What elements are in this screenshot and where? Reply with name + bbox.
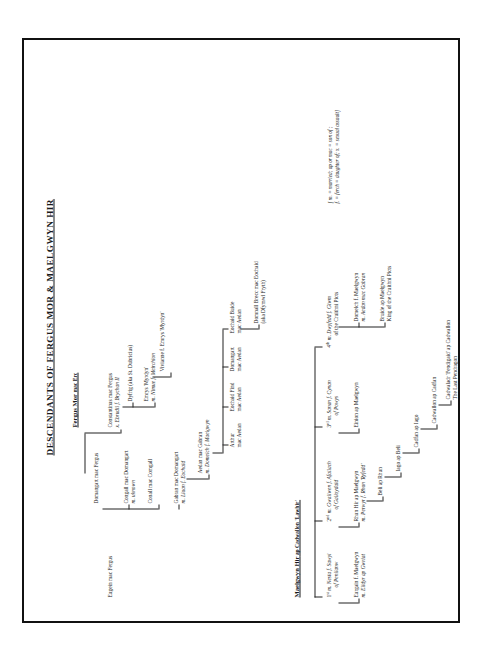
node-beli: Beli ap Rhun [376,467,383,495]
node-gabran: Gabran mac Domangart m. Lluan f. Eochaid [172,451,185,503]
connector-emrys-trunk [152,376,170,377]
node-aedan-line1: Aedan mac Gabran [196,419,203,473]
connector-m1-trunk [338,602,358,603]
node-domelch: Domelch f. Maelgwyn m. Aedan mac Gabran [352,272,365,321]
connector-bar-m4 [314,346,322,347]
fergus-heading-sub: mac Erc [71,372,77,393]
node-dyfrig-line1: Dyfrig (aka St. Dubricius) [126,344,133,401]
node-vivianne: Vivianne f. Emrys 'Myrdyn' [158,311,165,371]
connector-to-emrys [154,402,155,407]
node-dyfrig: Dyfrig (aka St. Dubricius) [126,344,133,401]
node-constantinus-line1: Constantinus mac Fergus [106,373,113,427]
connector-bar-m3 [314,426,322,427]
node-domangart-mac-fergus-line1: Domangart mac Fergus [92,452,99,503]
section-heading-maelgwyn: Maelgwyn Hir ap Cadwallon 'Lawhir' [292,499,300,597]
legend-line2: f. = ferch = daughter of; x. = sexual as… [333,110,340,203]
node-marriage-3-line1: 3rd m. Sanan f. Cynan [324,380,332,427]
connector-bar-eochaid-buide [222,328,228,329]
node-marriage-4-name: m. Dwyfedd f. Giwm [326,296,332,342]
node-arthur-line1: Arthur [228,423,235,447]
connector-bar-m2 [314,520,322,521]
connector-to-dyfrig [132,402,133,407]
node-marriage-4-line2: of the Cruithni Picts [332,291,339,335]
rotated-content-wrapper: DESCENDANTS OF FERGUS MOR & MAELGWYN HIR… [24,40,462,625]
node-marriage-1: 1st m. Nesta f. Sawyl of Penllanw [324,553,339,597]
connector-to-domelch [358,322,359,327]
connector-to-vivianne [170,372,171,377]
connector-cadwallon-trunk [438,404,450,405]
connector-to-aedan [208,474,209,479]
connector-maelgwyn-marriage-bar [314,347,315,597]
node-cadwaladr-line2: The Last Pendragon [451,320,458,399]
connector-to-einion [358,428,359,433]
node-marriage-2: 2nd m. Gwallwen f. Afallach of Galloydai… [324,461,339,521]
node-einion-line1: Einion ap Maelgwyn [352,382,359,427]
node-gabran-line1: Gabran mac Domangart [172,451,179,503]
connector-to-cadwallon [436,424,437,429]
connector-gabran-trunk [186,478,208,479]
maelgwyn-heading-main: Maelgwyn Hir [292,556,299,597]
node-eurgain-line2: m. Elidyr ap Gwriat [359,551,366,597]
node-domnall-brecc: Domnall Brecc mac Eochaid (aka Dfymwl Fr… [252,261,265,323]
node-domangart-mac-aedan-line1: Domangart [228,347,235,371]
connector-fergus-to-domangart [84,433,85,473]
node-cadwaladr: Cadwaladr 'Fendigaid' ap Cadwallon The L… [444,320,457,399]
node-eochaid-buide-line1: Eochaid Buide [228,301,235,333]
node-domelch-line2: m. Aedan mac Gabran [359,272,366,321]
connector-m2-trunk [338,526,358,527]
connector-bar-eochaid-find [222,406,228,407]
node-eugein-line1: Eugein mac Fergus [106,555,113,597]
fergus-heading-main: Fergus Mor [70,393,77,427]
node-eurgain: Eurgain f. Maelgwyn m. Elidyr ap Gwriat [352,551,365,597]
connector-to-domnall-brecc [258,324,259,329]
page-canvas: DESCENDANTS OF FERGUS MOR & MAELGWYN HIR… [0,0,482,661]
node-marriage-1-name: m. Nesta f. Sawyl [326,553,332,592]
node-aedan: Aedan mac Gabran m. Domelch f. Maelgwyn [196,419,209,473]
connector-to-gabran [178,504,179,509]
node-conall-line1: Conall mac Comgall [146,458,153,503]
section-heading-fergus: Fergus Mor mac Erc [70,372,78,427]
node-rhun: Rhun Hir ap Maelgwyn m. Perwyr f. Rhun '… [352,463,365,521]
node-bruide: Bruide ap Maelgwyn King of the Cruithni … [378,265,391,321]
node-congall: Congall mac Domangart m. uknown [122,450,135,503]
node-marriage-4-line1: 4th m. Dwyfedd f. Giwm [324,291,332,347]
node-domangart-mac-fergus: Domangart mac Fergus [92,452,99,503]
node-congall-line2: m. uknown [129,450,136,503]
node-eochaid-find-line1: Eochaid Find [228,382,235,411]
node-arthur-line2: mac Aedan [235,423,242,447]
node-marriage-3-name: m. Sanan f. Cynan [326,380,332,421]
node-rhun-line2: m. Perwyr f. Rhun 'Ryfedd' [359,463,366,521]
legend-key: [ m. = married; ap or mac = son of ; f. … [326,110,340,203]
node-aedan-line2: m. Domelch f. Maelgwyn [203,419,210,473]
node-marriage-1-line2: of Penllanw [332,553,339,587]
node-eurgain-line1: Eurgain f. Maelgwyn [352,551,359,597]
connector-to-bruide [384,322,385,327]
connector-to-rhun [358,522,359,527]
connector-bar-domangart [222,366,228,367]
node-marriage-2-line1: 2nd m. Gwallwen f. Afallach [324,461,332,521]
connector-fergus-to-constantinus [120,429,121,433]
node-marriage-3-line2: of Powys [332,380,339,415]
node-eochaid-find: Eochaid Find mac Aedan [228,382,241,411]
node-cadfan-line1: Cadfan ap Iago [412,414,419,447]
node-emrys-line1: Emrys 'Myrdyn' [142,353,149,401]
node-marriage-4: 4th m. Dwyfedd f. Giwm of the Cruithni P… [324,291,339,347]
connector-to-beli [382,496,383,501]
connector-aedan-sibling-bar [222,329,223,445]
connector-to-conall [158,504,159,509]
connector-eochaid-buide-trunk [240,328,258,329]
connector-to-iago [400,472,401,477]
node-eochaid-buide: Eochaid Buide mac Aedan [228,301,241,333]
node-constantinus-line2: x. Ebrudil f. Brychan II [113,373,120,427]
document-sheet: DESCENDANTS OF FERGUS MOR & MAELGWYN HIR… [22,38,460,623]
node-cadwallon-line1: Cadwallon ap Cadfan [430,376,437,423]
node-cadfan: Cadfan ap Iago [412,414,419,447]
connector-aedan-down [212,452,222,453]
page-title: DESCENDANTS OF FERGUS MOR & MAELGWYN HIR [44,198,55,455]
node-domangart-mac-aedan: Domangart mac Aedan [228,347,241,371]
connector-m3-trunk [338,432,358,433]
legend-line1: [ m. = married; ap or mac = son of ; [326,110,333,203]
node-cadwallon: Cadwallon ap Cadfan [430,376,437,423]
connector-rhun-trunk [366,500,382,501]
node-domnall-brecc-line1: Domnall Brecc mac Eochaid [252,261,259,323]
